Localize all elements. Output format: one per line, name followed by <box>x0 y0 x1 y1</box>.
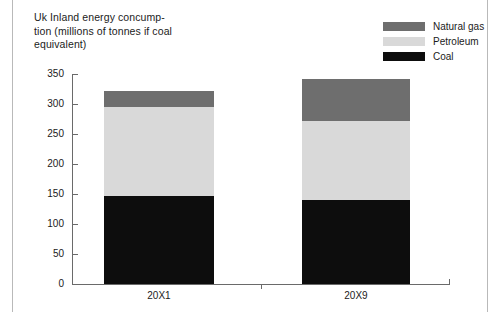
y-axis-tick <box>72 224 78 225</box>
x-axis-tick <box>261 284 262 289</box>
y-axis-tick <box>72 74 78 75</box>
bar-segment-coal[interactable] <box>104 196 214 284</box>
y-axis-tick <box>72 254 78 255</box>
y-axis-tick <box>72 164 78 165</box>
y-axis-tick-label: 150 <box>30 188 64 199</box>
bar-segment-coal[interactable] <box>302 200 410 284</box>
x-axis-label-20X9: 20X9 <box>282 290 430 301</box>
y-axis-tick <box>72 284 78 285</box>
chart-plot-area: 350300250200150100500 20X120X9 <box>0 0 500 312</box>
y-axis-tick-label: 350 <box>30 68 64 79</box>
y-axis-tick-label: 250 <box>30 128 64 139</box>
y-axis-tick <box>72 194 78 195</box>
y-axis-tick-label: 50 <box>30 248 64 259</box>
x-axis-end-cap <box>449 279 450 285</box>
y-axis-tick-label: 100 <box>30 218 64 229</box>
bar-segment-petroleum[interactable] <box>302 121 410 200</box>
bar-20X1[interactable] <box>104 74 214 284</box>
bar-segment-petroleum[interactable] <box>104 107 214 196</box>
y-axis-tick-label: 200 <box>30 158 64 169</box>
y-axis-tick <box>72 134 78 135</box>
y-axis-tick-label: 300 <box>30 98 64 109</box>
y-axis-tick-label: 0 <box>30 278 64 289</box>
bar-segment-natural-gas[interactable] <box>104 91 214 107</box>
bar-20X9[interactable] <box>302 74 410 284</box>
bar-segment-natural-gas[interactable] <box>302 79 410 120</box>
x-axis-label-20X1: 20X1 <box>84 290 234 301</box>
y-axis-tick <box>72 104 78 105</box>
